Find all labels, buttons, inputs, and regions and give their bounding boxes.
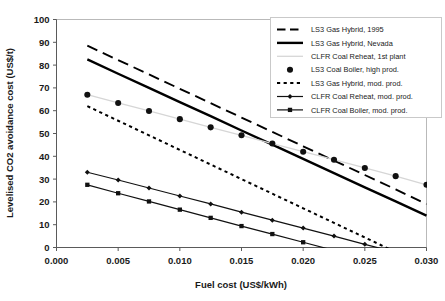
data-point-marker [208, 124, 214, 130]
y-tick-label: 70 [39, 82, 50, 93]
y-axis-title: Levelised CO2 avoidance cost (US$/t) [4, 48, 15, 218]
circle-marker-swatch [287, 67, 293, 73]
data-point-marker [147, 199, 151, 203]
chart-legend: LS3 Gas Hybrid, 1995LS3 Gas Hybrid, Neva… [271, 18, 442, 118]
y-tick-label: 30 [39, 174, 50, 185]
y-tick-label: 100 [34, 14, 50, 25]
data-point-marker [178, 208, 182, 212]
y-tick-label: 40 [39, 151, 50, 162]
data-point-marker [288, 108, 292, 112]
data-point-marker [331, 157, 337, 163]
data-point-marker [177, 116, 183, 122]
x-tick-label: 0.030 [415, 255, 439, 266]
data-point-marker [301, 240, 305, 244]
y-tick-label: 0 [44, 242, 49, 253]
y-tick-label: 20 [39, 196, 50, 207]
y-tick-label: 50 [39, 128, 50, 139]
legend-item-label: LS3 Coal Boiler, high prod. [311, 65, 399, 74]
x-tick-label: 0.020 [291, 255, 315, 266]
data-point-marker [115, 100, 121, 106]
legend-item-label: CLFR Coal Boiler, mod. prod. [311, 106, 408, 115]
data-point-marker [238, 132, 244, 138]
data-point-marker [269, 140, 275, 146]
data-point-marker [116, 191, 120, 195]
legend-item-label: CLFR Coal Reheat, mod. prod. [311, 92, 413, 101]
co2-avoidance-cost-line-chart: 0102030405060708090100 0.0000.0050.0100.… [0, 0, 445, 301]
data-point-marker [239, 224, 243, 228]
legend-item-label: LS3 Gas Hybrid, 1995 [311, 25, 384, 34]
y-tick-label: 60 [39, 105, 50, 116]
data-point-marker [287, 67, 293, 73]
chart-container: 0102030405060708090100 0.0000.0050.0100.… [0, 0, 445, 301]
data-point-marker [270, 232, 274, 236]
y-tick-label: 80 [39, 60, 50, 71]
data-point-marker [300, 149, 306, 155]
legend-item-label: CLFR Coal Reheat, 1st plant [311, 52, 405, 61]
y-tick-label: 90 [39, 37, 50, 48]
data-point-marker [362, 165, 368, 171]
data-point-marker [85, 183, 89, 187]
legend-item-label: LS3 Gas Hybrid, Nevada [311, 39, 394, 48]
data-point-marker [84, 92, 90, 98]
x-tick-label: 0.025 [353, 255, 377, 266]
legend-item-label: LS3 Gas Hybrid, mod. prod. [311, 79, 403, 88]
x-tick-label: 0.005 [106, 255, 130, 266]
data-point-marker [146, 108, 152, 114]
data-point-marker [209, 216, 213, 220]
x-tick-label: 0.000 [45, 255, 69, 266]
data-point-marker [393, 173, 399, 179]
x-axis-title: Fuel cost (US$/kWh) [195, 279, 287, 290]
x-tick-label: 0.015 [230, 255, 254, 266]
y-tick-label: 10 [39, 219, 50, 230]
x-tick-label: 0.010 [168, 255, 192, 266]
